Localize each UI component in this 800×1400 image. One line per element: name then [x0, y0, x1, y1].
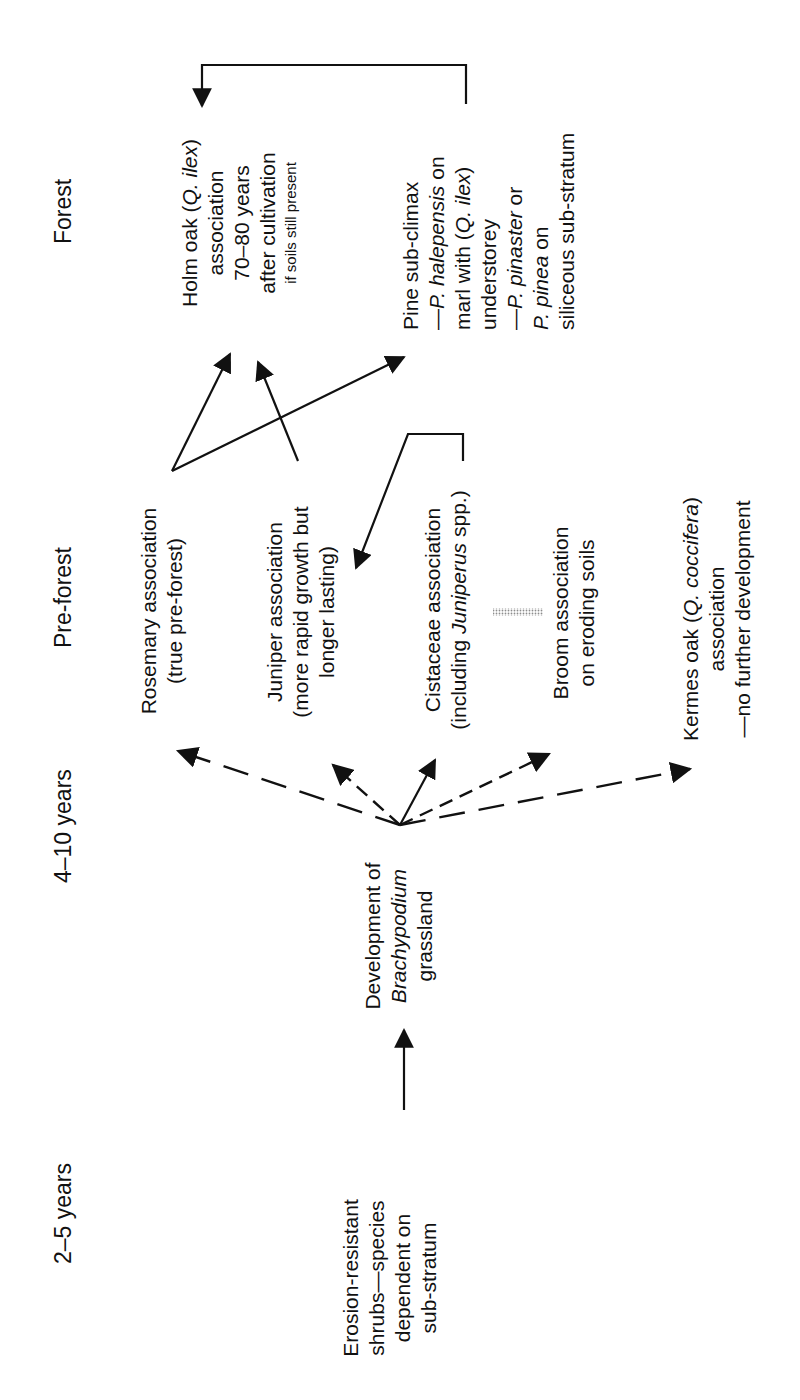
holm-species: Q. ilex	[178, 146, 201, 206]
stage-label-forest: Forest	[50, 179, 77, 244]
node-erosion-line-3: dependent on	[390, 1163, 416, 1393]
node-rosemary-line-2: (true pre-forest)	[162, 485, 188, 737]
node-broom-line-1: Broom association	[548, 511, 574, 715]
pine-l5-species: P. pinaster	[503, 211, 526, 309]
node-holm-line-5: if soils still present	[281, 103, 301, 343]
arrow-grassland-to-cistaceae	[400, 760, 435, 825]
node-pine-line-4: understorey	[476, 50, 502, 330]
node-holm-line-2: association	[203, 103, 229, 343]
node-erosion-line-2: shrubs—species	[364, 1163, 390, 1393]
pine-l3-post: )	[451, 167, 474, 174]
pine-l2-species: P. halepensis	[425, 186, 448, 309]
node-brachypodium-grassland: Development of Brachypodium grassland	[360, 848, 438, 1024]
arrow-rosemary-to-holm-oak	[172, 354, 230, 471]
node-erosion-resistant-shrubs: Erosion-resistant shrubs—species depende…	[338, 1163, 442, 1393]
node-juniper-association: Juniper association (more rapid growth b…	[262, 484, 340, 740]
node-holm-line-4: after cultivation	[255, 103, 281, 343]
stage-label-4-10-years-text: 4–10 years	[50, 769, 77, 883]
node-kermes-line-1: Kermes oak (Q. coccifera)	[678, 476, 704, 762]
arrow-grassland-to-kermes	[400, 769, 690, 825]
cistaceae-genus: Juniperus	[447, 543, 470, 634]
node-cistaceae-line-2: (including Juniperus spp.)	[446, 468, 472, 752]
node-juniper-line-3: longer lasting)	[314, 484, 340, 740]
pine-l3-species: Q. ilex	[451, 174, 474, 234]
node-brachypodium-species: Brachypodium	[387, 869, 410, 1003]
node-cistaceae-line-1: Cistaceae association	[420, 468, 446, 752]
node-holm-oak-association: Holm oak (Q. ilex) association 70–80 yea…	[177, 103, 301, 343]
arrow-grassland-to-juniper	[333, 765, 400, 825]
succession-diagram: 2–5 years 4–10 years Pre-forest Forest E…	[0, 0, 800, 1400]
node-pine-line-1: Pine sub-climax	[398, 50, 424, 330]
node-cistaceae-association: Cistaceae association (including Juniper…	[420, 468, 472, 752]
stage-label-2-5-years: 2–5 years	[50, 1163, 77, 1264]
pine-l2-post: on	[425, 156, 448, 185]
node-rosemary-association: Rosemary association (true pre-forest)	[136, 485, 188, 737]
node-kermes-oak-association: Kermes oak (Q. coccifera) association —n…	[678, 476, 756, 762]
node-pine-line-7: siliceous sub-stratum	[554, 50, 580, 330]
node-brachypodium-line-2: Brachypodium	[386, 848, 412, 1024]
kermes-pre: Kermes oak (	[679, 616, 702, 741]
node-holm-line-3: 70–80 years	[229, 103, 255, 343]
node-juniper-line-1: Juniper association	[262, 484, 288, 740]
node-brachypodium-line-3: grassland	[412, 848, 438, 1024]
node-brachypodium-line-1: Development of	[360, 848, 386, 1024]
pine-l5-post: or	[503, 187, 526, 212]
node-erosion-line-4: sub-stratum	[416, 1163, 442, 1393]
holm-post: )	[178, 139, 201, 146]
pine-l3-pre: marl with (	[451, 233, 474, 330]
node-pine-sub-climax: Pine sub-climax —P. halepensis on marl w…	[398, 50, 580, 330]
holm-pre: Holm oak (	[178, 206, 201, 308]
pine-l6-species: P. pinea	[529, 256, 552, 330]
node-holm-line-1: Holm oak (Q. ilex)	[177, 103, 203, 343]
arrow-rosemary-to-pine	[172, 357, 404, 471]
arrow-grassland-to-rosemary	[178, 751, 400, 825]
cistaceae-pre: (including	[447, 634, 470, 730]
node-kermes-line-2: association	[704, 476, 730, 762]
stage-label-pre-forest: Pre-forest	[50, 547, 77, 648]
node-pine-line-3: marl with (Q. ilex)	[450, 50, 476, 330]
cistaceae-post: spp.)	[447, 490, 470, 543]
kermes-species: Q. coccifera	[679, 504, 702, 616]
pine-l5-pre: —	[503, 309, 526, 330]
node-broom-line-2: on eroding soils	[574, 511, 600, 715]
node-pine-line-2: —P. halepensis on	[424, 50, 450, 330]
node-juniper-line-2: (more rapid growth but	[288, 484, 314, 740]
arrow-grassland-to-broom	[400, 754, 549, 825]
node-kermes-line-3: —no further development	[730, 476, 756, 762]
node-rosemary-line-1: Rosemary association	[136, 485, 162, 737]
pine-l2-pre: —	[425, 309, 448, 330]
node-broom-association: Broom association on eroding soils	[548, 511, 600, 715]
kermes-post: )	[679, 497, 702, 504]
node-erosion-line-1: Erosion-resistant	[338, 1163, 364, 1393]
pine-l6-post: on	[529, 226, 552, 255]
stippled-link-broom-cistaceae	[493, 608, 543, 616]
node-pine-line-5: —P. pinaster or	[502, 50, 528, 330]
node-pine-line-6: P. pinea on	[528, 50, 554, 330]
